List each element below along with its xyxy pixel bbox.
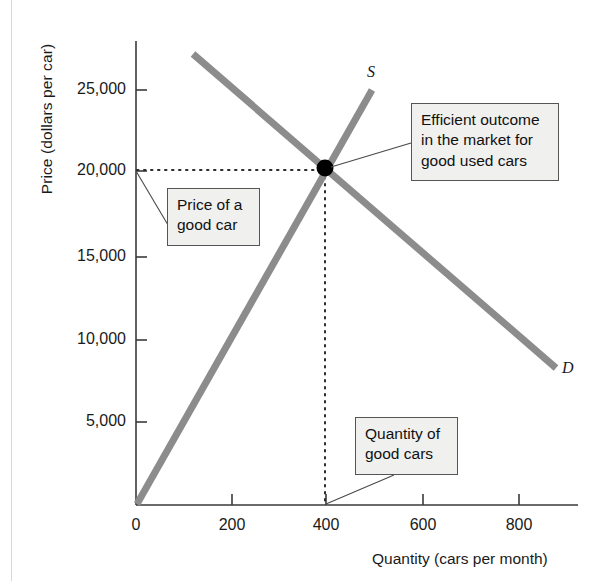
y-tick-label-20000: 20,000 [36,161,126,179]
efficient-callout-line-3: good used cars [421,151,549,171]
figure-market-for-good-used-cars: Price (dollars per car) Quantity (cars p… [0,0,612,581]
price-of-good-car-callout: Price of a good car [167,188,260,246]
price-callout-line-2: good car [177,215,250,235]
supply-curve [137,90,372,504]
y-tick-label-5000: 5,000 [36,412,126,430]
quantity-of-good-cars-callout: Quantity of good cars [355,417,458,475]
x-tick-label-600: 600 [388,516,458,534]
x-tick-label-800: 800 [484,516,554,534]
price-callout-leader-line [136,171,168,225]
equilibrium-point-marker [317,160,334,177]
y-axis-title: Price (dollars per car) [38,9,56,229]
x-tick-label-400: 400 [291,516,361,534]
demand-curve-label: D [562,359,574,377]
efficient-outcome-callout: Efficient outcome in the market for good… [411,103,559,181]
y-tick-label-10000: 10,000 [36,330,126,348]
y-tick-label-15000: 15,000 [36,247,126,265]
supply-curve-label: S [367,63,375,81]
y-tick-label-25000: 25,000 [36,80,126,98]
efficient-callout-line-2: in the market for [421,130,549,150]
price-callout-line-1: Price of a [177,195,250,215]
efficient-callout-line-1: Efficient outcome [421,110,549,130]
y-tick-marks [136,90,147,422]
quantity-callout-leader-line [326,475,394,504]
x-tick-label-0: 0 [101,516,171,534]
x-axis-title: Quantity (cars per month) [372,550,548,568]
x-tick-label-200: 200 [197,516,267,534]
quantity-callout-line-2: good cars [365,444,448,464]
quantity-callout-line-1: Quantity of [365,424,448,444]
x-tick-marks [232,494,519,505]
